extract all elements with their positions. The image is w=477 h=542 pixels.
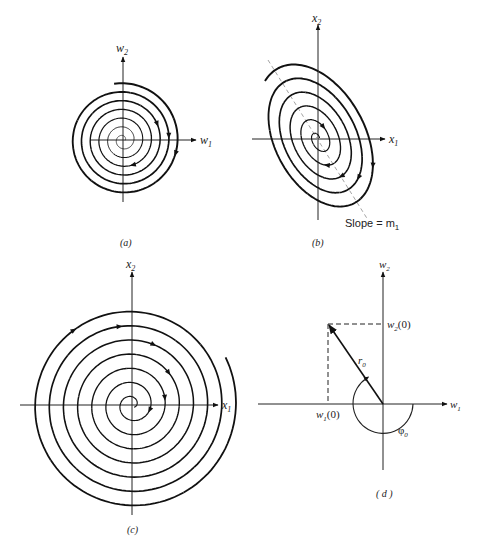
panel-a-spiral-segment	[91, 149, 124, 175]
panel-b-spiral-segment	[323, 166, 349, 179]
panel-a-spiral-segment	[118, 118, 141, 131]
panel-d-w2-0-label: w2(0)	[387, 318, 411, 333]
panel-b-spiral-segment	[323, 144, 330, 152]
panel-d: w2 w1 w2(0) w1(0) r0 φ0 ( d )	[258, 258, 461, 500]
panel-b-spiral-segment	[319, 72, 369, 136]
panel-d-caption: ( d )	[376, 488, 393, 500]
panel-a-spiral-arrow-icon	[129, 162, 136, 168]
panel-a-y-label: w2	[116, 41, 128, 57]
panel-a-spiral-segment	[119, 135, 125, 136]
panel-a-spiral-segment	[144, 119, 152, 154]
panel-d-r0-label: r0	[358, 354, 366, 369]
panel-a-spiral-segment	[135, 131, 143, 154]
panel-c-x-label: x1	[221, 398, 231, 414]
panel-b-x-label: x1	[388, 132, 398, 148]
panel-a-spiral-segment	[124, 127, 134, 138]
panel-c-spiral-segment	[107, 414, 141, 435]
panel-b: x2 x1 Slope = m1 (b)	[252, 11, 400, 249]
panel-c-spiral-segment	[121, 412, 140, 420]
panel-a-spiral-arrow-icon	[166, 133, 171, 139]
panel-d-w1-0-label: w1(0)	[316, 408, 340, 423]
panel-a-spiral-segment	[109, 127, 124, 135]
panel-a-caption: (a)	[120, 237, 132, 249]
panel-c-spiral-segment	[35, 330, 74, 460]
panel-c-spiral-arrow-icon	[146, 406, 153, 414]
panel-c-spiral-segment	[176, 341, 208, 443]
panel-a-spiral-segment	[91, 181, 155, 193]
panel-b-spiral-segment	[335, 138, 341, 163]
panel-b-spiral-segment	[294, 106, 319, 112]
panel-c-spiral-segment	[134, 401, 137, 407]
panel-c-spiral-segment	[184, 357, 236, 492]
panel-b-spiral-segment	[323, 127, 329, 144]
panel-b-spiral-segment	[312, 135, 314, 144]
panel-c-spiral-segment	[49, 355, 76, 468]
panel-b-spiral-segment	[280, 92, 306, 115]
panel-b-spiral-segment	[319, 110, 339, 138]
panel-a: w2 w1 (a)	[73, 41, 212, 249]
panel-a-spiral-segment	[124, 148, 159, 175]
panel-b-caption: (b)	[312, 237, 324, 249]
panel-b-spiral	[265, 65, 376, 207]
panel-b-spiral-segment	[279, 115, 296, 168]
panel-a-spiral-segment	[107, 109, 144, 119]
panel-d-phi0-label: φ0	[398, 424, 408, 439]
panel-a-spiral-segment	[141, 106, 161, 149]
panel-c-spiral-arrow-icon	[150, 341, 158, 348]
panel-c-caption: (c)	[127, 524, 139, 536]
panel-c-spiral	[35, 312, 236, 506]
panel-c-y-label: x2	[125, 257, 135, 273]
panel-b-spiral-segment	[290, 112, 294, 147]
panel-a-spiral-segment	[116, 137, 118, 145]
panel-c-spiral-segment	[137, 355, 180, 407]
panel-c-spiral-segment	[92, 409, 134, 449]
panel-b-slope-label: Slope = m1	[345, 217, 400, 232]
panel-b-y-label: x2	[311, 11, 321, 27]
panel-b-spiral-segment	[335, 97, 362, 157]
panel-c-spiral-segment	[126, 396, 137, 400]
panel-c-spiral-segment	[123, 382, 150, 396]
panel-c-spiral-segment	[140, 398, 165, 434]
panel-a-spiral-segment	[114, 154, 136, 158]
panel-a-spiral-arrow-icon	[154, 120, 161, 127]
panel-a-spiral-segment	[117, 145, 127, 149]
panel-a-spiral	[73, 83, 179, 192]
panel-b-spiral-segment	[342, 121, 351, 166]
figure-canvas: w2 w1 (a) x2 x1 Slope = m1 (b) x2 x1 (c)…	[0, 0, 477, 542]
panel-d-y-label: w2	[379, 258, 390, 273]
panel-d-x-label: w1	[450, 398, 461, 413]
panel-a-x-label: w1	[200, 133, 212, 149]
panel-b-spiral-arrow-icon	[370, 162, 375, 168]
panel-c-spiral-segment	[133, 407, 179, 449]
panel-b-spiral-arrow-icon	[324, 162, 331, 168]
panel-a-spiral-segment	[108, 135, 114, 154]
panel-b-spiral-segment	[308, 194, 361, 207]
panel-c: x2 x1 (c)	[20, 257, 236, 536]
panel-c-spiral-segment	[120, 422, 191, 463]
panel-b-spiral-arrow-icon	[355, 174, 362, 182]
panel-b-spiral-segment	[269, 81, 287, 131]
panel-c-spiral-arrow-icon	[162, 395, 167, 401]
panel-d-r0-vector	[329, 325, 383, 404]
panel-c-spiral-segment	[51, 460, 184, 505]
panel-c-spiral-segment	[76, 467, 194, 491]
panel-c-spiral-arrow-icon	[116, 324, 122, 329]
